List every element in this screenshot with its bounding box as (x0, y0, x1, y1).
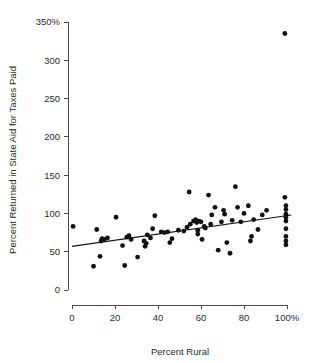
data-point (228, 251, 233, 256)
data-point (200, 237, 205, 242)
data-point (233, 184, 238, 189)
data-point (224, 240, 229, 245)
data-point (238, 219, 243, 224)
data-point (256, 227, 261, 232)
data-point (120, 243, 125, 248)
x-tick-label: 80 (239, 312, 250, 323)
data-point (284, 226, 289, 231)
x-tick-label: 100% (275, 312, 300, 323)
data-point (230, 218, 235, 223)
data-point (199, 219, 204, 224)
y-axis-group: 050100150200250300350% Percent Returned … (7, 16, 68, 295)
data-point (187, 190, 192, 195)
scatter-plot-figure: 050100150200250300350% Percent Returned … (0, 0, 314, 363)
y-tick-label: 350% (36, 16, 61, 27)
data-point (284, 234, 289, 239)
data-point (249, 234, 254, 239)
x-tick-label: 60 (196, 312, 207, 323)
data-point (222, 212, 227, 217)
data-point (216, 248, 221, 253)
data-point (105, 236, 110, 241)
data-point (248, 239, 253, 244)
y-tick-label: 150 (44, 170, 60, 181)
y-tick-labels: 050100150200250300350% (36, 16, 61, 295)
data-point (203, 226, 208, 231)
data-point (152, 213, 157, 218)
x-tick-label: 0 (69, 312, 74, 323)
data-point (208, 222, 213, 227)
data-point (282, 31, 287, 36)
data-point (144, 241, 149, 246)
data-point (260, 213, 265, 218)
data-point (242, 211, 247, 216)
y-tick-label: 200 (44, 131, 60, 142)
data-point (165, 229, 170, 234)
data-point (129, 237, 134, 242)
x-axis-group: 020406080100% Percent Rural (69, 305, 299, 357)
data-point (135, 255, 140, 260)
data-point (246, 203, 251, 208)
x-tick-labels: 020406080100% (69, 312, 299, 323)
data-point (195, 228, 200, 233)
data-point (282, 195, 287, 200)
y-tick-label: 250 (44, 93, 60, 104)
y-tick-label: 300 (44, 55, 60, 66)
data-point (170, 236, 175, 241)
data-point (91, 264, 96, 269)
data-point (213, 205, 218, 210)
data-point (264, 208, 269, 213)
data-point (209, 213, 214, 218)
data-point (206, 193, 211, 198)
plot-canvas: 050100150200250300350% Percent Returned … (0, 0, 314, 363)
y-tick-label: 50 (49, 246, 60, 257)
data-point (150, 226, 155, 231)
data-point (94, 227, 99, 232)
y-axis-title: Percent Returned in State Aid for Taxes … (7, 66, 18, 254)
data-point (219, 219, 224, 224)
x-tick-label: 40 (153, 312, 164, 323)
data-point (251, 217, 256, 222)
data-point (71, 224, 76, 229)
data-point (122, 263, 127, 268)
y-tick-label: 100 (44, 208, 60, 219)
x-axis-title: Percent Rural (151, 346, 209, 357)
data-point (98, 254, 103, 259)
data-points-group (71, 31, 289, 269)
x-tick-marks (72, 305, 287, 309)
data-point (176, 228, 181, 233)
y-tick-label: 0 (55, 284, 60, 295)
data-point (284, 219, 289, 224)
y-tick-marks (64, 22, 68, 290)
data-point (148, 236, 153, 241)
data-point (181, 229, 186, 234)
data-point (284, 207, 289, 212)
data-point (114, 215, 119, 220)
data-point (284, 242, 289, 247)
x-tick-label: 20 (110, 312, 121, 323)
data-point (235, 205, 240, 210)
